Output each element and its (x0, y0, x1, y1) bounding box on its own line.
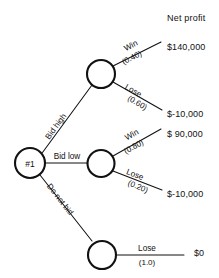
net-profit-column-header: Net profit (167, 13, 206, 23)
branch-label-bid-low: Bid low (54, 152, 80, 161)
payoff-value-bid-low-win: $ 90,000 (167, 129, 203, 139)
branch-label-bid-high: Bid high (44, 112, 69, 142)
outcome-probability-do-not-bid-lose: (1.0) (139, 258, 156, 267)
decision-node-1-label: #1 (25, 159, 35, 169)
outcome-probability-bid-low-lose: (0.20) (127, 179, 150, 195)
payoff-value-bid-high-lose: $-10,000 (167, 109, 203, 119)
outcome-label-do-not-bid-lose: Lose (138, 244, 156, 253)
bid-low-chance-node[interactable] (88, 150, 115, 177)
outcome-probability-bid-high-win: (0.40) (121, 49, 144, 67)
payoff-value-bid-high-win: $140,000 (167, 42, 205, 52)
payoff-value-do-not-bid-lose: $0 (194, 248, 204, 258)
branch-bid-high (43, 85, 93, 153)
bid-high-chance-node[interactable] (87, 60, 115, 88)
payoff-value-bid-low-lose: $-10,000 (167, 189, 203, 199)
decision-tree-figure: #1 Bid high Bid low Do not bid Win (0.40… (0, 0, 219, 278)
decision-tree-canvas: #1 Bid high Bid low Do not bid Win (0.40… (0, 0, 219, 278)
branch-label-do-not-bid: Do not bid (45, 182, 75, 217)
do-not-bid-chance-node[interactable] (88, 241, 116, 269)
